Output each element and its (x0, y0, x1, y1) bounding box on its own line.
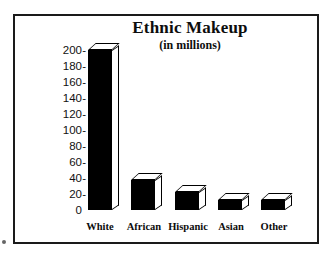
bar-other-face (261, 200, 285, 210)
x-label-asian: Asian (208, 221, 254, 232)
bar-african-face (131, 180, 155, 210)
bar-african-side (155, 175, 162, 210)
bar-hispanic (175, 192, 199, 210)
bar-african (131, 180, 155, 210)
bar-asian (218, 200, 242, 210)
x-label-other: Other (251, 221, 297, 232)
bar-white-face (88, 50, 112, 210)
bar-white (88, 50, 112, 210)
bar-other (261, 200, 285, 210)
bar-white-side (112, 45, 119, 210)
bar-asian-face (218, 200, 242, 210)
bar-hispanic-face (175, 192, 199, 210)
plot-area: White African Hispanic Asian Other (0, 0, 332, 258)
chart-figure: Ethnic Makeup (in millions) 200- 180- 16… (0, 0, 332, 258)
x-label-white: White (78, 221, 122, 232)
